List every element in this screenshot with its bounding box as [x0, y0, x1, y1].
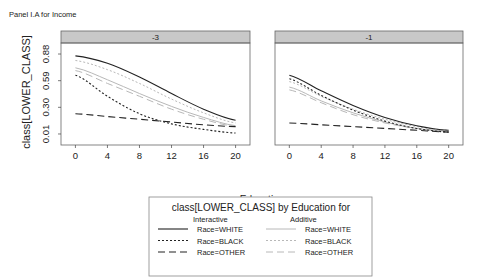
panel-strip-label: -1	[365, 33, 373, 42]
legend-column-interactive: Interactive	[193, 215, 228, 224]
panel-1: -1048121620	[275, 31, 463, 161]
y-tick-label: 0.59	[40, 71, 51, 90]
legend-column-additive: Additive	[290, 215, 317, 224]
x-tick-label: 12	[166, 150, 177, 161]
legend-title: class[LOWER_CLASS] by Education for	[172, 202, 351, 213]
legend-label-additive: Race=BLACK	[305, 237, 351, 246]
x-tick-label: 0	[73, 150, 78, 161]
x-tick-label: 12	[380, 150, 391, 161]
x-tick-label: 20	[230, 150, 241, 161]
legend: class[LOWER_CLASS] by Education for Inte…	[149, 197, 372, 276]
x-tick-label: 8	[137, 150, 142, 161]
legend-label-additive: Race=OTHER	[305, 248, 354, 257]
x-tick-label: 16	[412, 150, 423, 161]
legend-label-interactive: Race=WHITE	[197, 225, 243, 234]
x-tick-label: 0	[287, 150, 292, 161]
series-additive-black	[289, 82, 448, 131]
series-additive-white	[75, 68, 235, 126]
series-additive-other	[75, 71, 235, 127]
panel-strip-label: -3	[152, 33, 160, 42]
series-interactive-white	[289, 75, 448, 130]
chart: Panel I.A for Income class[LOWER_CLASS] …	[0, 0, 480, 279]
x-tick-label: 16	[198, 150, 209, 161]
y-tick-label: 0.88	[40, 45, 51, 64]
x-tick-label: 20	[443, 150, 454, 161]
x-tick-label: 4	[319, 150, 324, 161]
y-tick-label: 0.30	[40, 98, 51, 117]
series-interactive-black	[75, 75, 235, 133]
x-tick-label: 4	[105, 150, 110, 161]
panel-frame	[275, 43, 463, 145]
x-tick-label: 8	[350, 150, 355, 161]
y-tick-label: 0.01	[40, 125, 51, 144]
series-additive-other	[289, 90, 448, 131]
legend-label-interactive: Race=BLACK	[197, 237, 243, 246]
series-additive-black	[75, 60, 235, 122]
panel-0: -30481216200.010.300.590.88	[40, 31, 250, 161]
legend-label-interactive: Race=OTHER	[197, 248, 246, 257]
legend-label-additive: Race=WHITE	[305, 225, 351, 234]
y-axis-label: class[LOWER_CLASS]	[20, 35, 32, 149]
series-interactive-white	[75, 56, 235, 120]
chart-title: Panel I.A for Income	[9, 10, 77, 19]
